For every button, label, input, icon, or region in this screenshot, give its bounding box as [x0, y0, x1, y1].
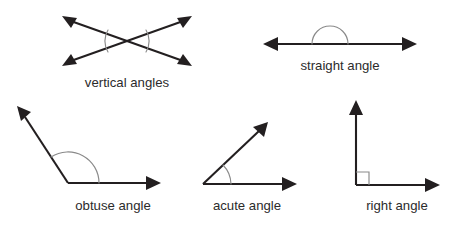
obtuse-angle-diagram: obtuse angle: [17, 106, 161, 213]
arrowhead-right-icon: [282, 177, 297, 191]
right-angle-diagram: right angle: [349, 100, 440, 213]
diagram-canvas: vertical angles straight angle obtuse an…: [0, 0, 456, 225]
angle-arc: [223, 165, 231, 184]
vertical-angles-label: vertical angles: [85, 75, 170, 90]
obtuse-angle-label: obtuse angle: [75, 198, 151, 213]
acute-angle-diagram: acute angle: [203, 122, 297, 213]
arrowhead-right-icon: [146, 176, 161, 190]
arrowhead-right-icon: [402, 37, 417, 51]
straight-angle-label: straight angle: [300, 58, 379, 73]
ray-segment-upper: [25, 117, 68, 183]
arrowhead-up-icon: [349, 100, 363, 115]
angle-arc-semicircle: [312, 26, 348, 44]
ray-segment-upper: [203, 131, 259, 184]
crossed-line-b: [62, 16, 192, 66]
vertical-angles-diagram: vertical angles: [62, 16, 192, 90]
arrowhead-left-icon: [263, 37, 278, 51]
right-angle-label: right angle: [366, 198, 428, 213]
arrowhead-up-left-icon: [17, 106, 31, 121]
arrowhead-right-icon: [425, 178, 440, 192]
straight-angle-diagram: straight angle: [263, 26, 417, 73]
right-angle-square-icon: [356, 172, 369, 185]
angle-types-figure: vertical angles straight angle obtuse an…: [0, 0, 456, 225]
acute-angle-label: acute angle: [213, 198, 281, 213]
